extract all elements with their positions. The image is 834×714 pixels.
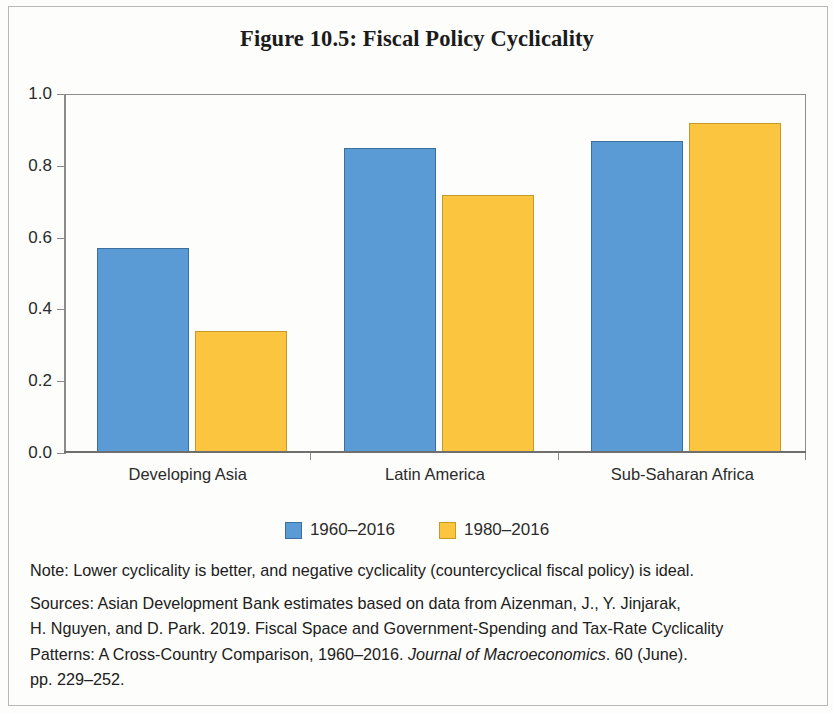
y-tick-label: 0.6 <box>28 228 52 248</box>
y-tick-label: 0.4 <box>28 299 52 319</box>
bar-group <box>311 94 558 453</box>
legend-label: 1980–2016 <box>464 520 549 540</box>
y-tick-label: 0.8 <box>28 156 52 176</box>
plot-area <box>64 94 806 453</box>
y-tick-mark <box>57 381 64 382</box>
note-text: Note: Lower cyclicality is better, and n… <box>30 558 820 584</box>
sources-line-3: Patterns: A Cross-Country Comparison, 19… <box>30 642 820 668</box>
y-tick-mark <box>57 94 64 95</box>
x-axis-label: Sub-Saharan Africa <box>559 465 806 484</box>
y-tick-mark <box>57 166 64 167</box>
bar <box>344 148 436 453</box>
figure-page: Figure 10.5: Fiscal Policy Cyclicality 0… <box>0 0 834 714</box>
y-tick-label: 0.2 <box>28 371 52 391</box>
y-tick-label: 0.0 <box>28 443 52 463</box>
legend-swatch-icon <box>285 522 302 539</box>
legend-label: 1960–2016 <box>310 520 395 540</box>
sources-line-2: H. Nguyen, and D. Park. 2019. Fiscal Spa… <box>30 616 820 642</box>
bar <box>195 331 287 453</box>
chart-title: Figure 10.5: Fiscal Policy Cyclicality <box>0 26 834 52</box>
legend-swatch-icon <box>439 522 456 539</box>
x-tick-mark <box>805 453 806 460</box>
y-tick-mark <box>57 238 64 239</box>
bar-group <box>559 94 806 453</box>
legend-item[interactable]: 1960–2016 <box>285 520 395 540</box>
y-tick-mark <box>57 453 64 454</box>
y-axis-ticks: 0.00.20.40.60.81.0 <box>0 94 64 453</box>
bar-group <box>64 94 311 453</box>
legend-item[interactable]: 1980–2016 <box>439 520 549 540</box>
journal-name: Journal of Macroeconomics <box>408 645 606 663</box>
y-tick-label: 1.0 <box>28 84 52 104</box>
sources-line-3-part-b: . 60 (June). <box>606 645 688 663</box>
x-axis-baseline <box>64 451 806 453</box>
sources-line-4: pp. 229–252. <box>30 667 820 693</box>
y-tick-mark <box>57 309 64 310</box>
bar <box>591 141 683 453</box>
x-axis-label: Latin America <box>311 465 558 484</box>
bar <box>689 123 781 453</box>
x-tick-mark <box>310 453 311 460</box>
sources-line-1: Sources: Asian Development Bank estimate… <box>30 591 820 617</box>
bar <box>442 195 534 453</box>
sources-line-3-part-a: Patterns: A Cross-Country Comparison, 19… <box>30 645 408 663</box>
bar <box>97 248 189 453</box>
x-axis-labels: Developing AsiaLatin AmericaSub-Saharan … <box>64 465 806 491</box>
bars-layer <box>64 94 806 453</box>
x-axis-label: Developing Asia <box>64 465 311 484</box>
x-tick-mark <box>558 453 559 460</box>
chart-legend: 1960–20161980–2016 <box>0 520 834 540</box>
figure-notes: Note: Lower cyclicality is better, and n… <box>30 558 820 693</box>
